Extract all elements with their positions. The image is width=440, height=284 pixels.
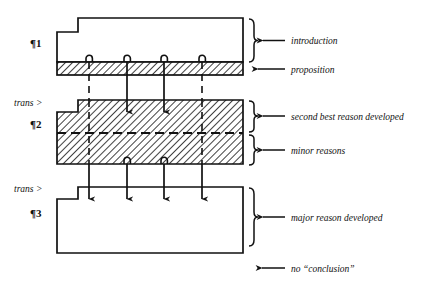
label-major-reason: major reason developed: [291, 213, 383, 223]
transition-label-3: trans >: [14, 184, 42, 194]
label-proposition: proposition: [290, 65, 335, 75]
paragraph-3-body: [57, 187, 243, 253]
proposition-band: [57, 62, 243, 75]
label-minor-reasons: minor reasons: [291, 146, 346, 156]
paragraph-3-label: ¶3: [30, 207, 42, 219]
essay-structure-diagram: ¶1 trans > ¶2 trans > ¶3: [0, 0, 440, 284]
label-introduction: introduction: [291, 36, 338, 46]
paragraph-2-body: [57, 100, 243, 164]
paragraph-2-label: ¶2: [30, 118, 42, 130]
transition-label-2: trans >: [14, 98, 42, 108]
paragraph-1-body: [57, 18, 243, 62]
diagram-root: ¶1 trans > ¶2 trans > ¶3: [0, 0, 440, 284]
label-no-conclusion: no “conclusion”: [291, 264, 355, 274]
paragraph-1-label: ¶1: [30, 37, 41, 49]
label-second-best-reason: second best reason developed: [291, 112, 404, 122]
